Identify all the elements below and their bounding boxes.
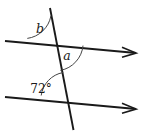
angle-label-72-degrees: 72° [30,82,51,96]
angle-label-a: a [63,48,70,63]
bottom-parallel-line [5,97,136,109]
geometry-canvas: b a 72° [0,0,146,136]
angle-label-b: b [36,21,44,36]
geometry-figure: b a 72° [0,0,146,136]
transversal-line [50,8,74,130]
